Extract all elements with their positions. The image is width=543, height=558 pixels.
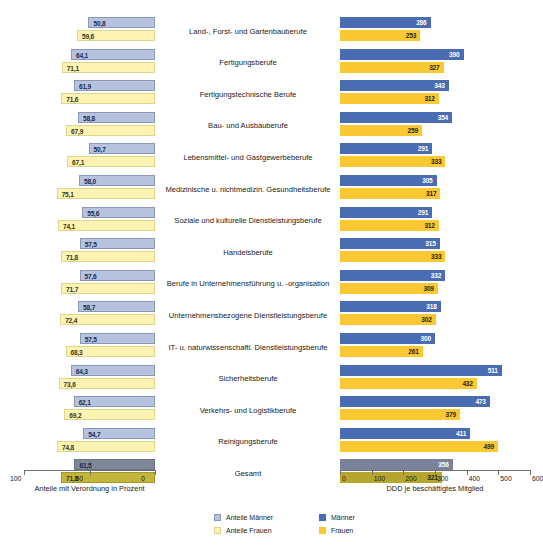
legend-item[interactable]: Anteile Männer (214, 512, 273, 523)
chart-row: 57,568,3IT- u. naturwissenschaftl. Diens… (0, 332, 538, 364)
legend-item[interactable]: Frauen (319, 525, 355, 536)
bar-frauen: 312 (340, 220, 439, 231)
bar-value-label: 291 (418, 209, 428, 216)
right-panel-ddd: 286253 (340, 16, 530, 48)
chart-row: 61,971,6Fertigungstechnische Berufe34331… (0, 79, 538, 111)
bar-value-label: 379 (446, 411, 456, 418)
bar-value-label: 75,1 (62, 191, 74, 198)
bar-maenner: 354 (340, 112, 452, 123)
bar-value-label: 354 (438, 114, 448, 121)
right-panel-ddd: 511432 (340, 364, 530, 396)
left-panel-percent: 55,674,1 (24, 206, 155, 238)
bar-anteile-maenner: 57,5 (80, 333, 155, 344)
chart-row: 50,767,1Lebensmittel- und Gastgewerbeber… (0, 142, 538, 174)
bar-anteile-maenner: 58,0 (79, 175, 155, 186)
bar-value-label: 50,7 (94, 146, 106, 153)
bar-maenner: 343 (340, 80, 449, 91)
bar-value-label: 343 (434, 82, 444, 89)
bar-anteile-frauen: 67,1 (67, 156, 155, 167)
left-panel-percent: 50,767,1 (24, 142, 155, 174)
bar-frauen: 327 (340, 62, 444, 73)
left-panel-percent: 61,971,6 (24, 79, 155, 111)
bar-frauen: 333 (340, 251, 445, 262)
bar-frauen: 317 (340, 188, 440, 199)
bar-value-label: 318 (426, 303, 436, 310)
left-panel-percent: 50,859,6 (24, 16, 155, 48)
right-panel-ddd: 354259 (340, 111, 530, 143)
legend-swatch-icon (214, 527, 221, 534)
bar-value-label: 68,3 (71, 349, 83, 356)
bar-value-label: 74,8 (62, 444, 74, 451)
left-panel-percent: 54,774,8 (24, 427, 155, 459)
bar-maenner: 318 (340, 301, 441, 312)
bar-maenner: 300 (340, 333, 435, 344)
bar-value-label: 67,1 (72, 159, 84, 166)
axis-tick-label: 500 (500, 475, 511, 482)
chart-row: 62,169,2Verkehrs- und Logistikberufe4733… (0, 395, 538, 427)
bar-value-label: 69,2 (69, 412, 81, 419)
bar-maenner: 356 (340, 459, 453, 470)
axis-tick-label: 600 (532, 475, 543, 482)
bar-value-label: 333 (431, 253, 441, 260)
bar-anteile-frauen: 75,1 (57, 188, 155, 199)
legend-item[interactable]: Männer (319, 512, 355, 523)
left-panel-percent: 64,171,1 (24, 48, 155, 80)
bar-value-label: 72,4 (65, 317, 77, 324)
left-panel-percent: 58,867,9 (24, 111, 155, 143)
category-label: IT- u. naturwissenschaftl. Dienstleistun… (158, 332, 338, 364)
bar-value-label: 55,6 (87, 210, 99, 217)
bar-value-label: 390 (449, 51, 459, 58)
legend-label: Männer (331, 514, 355, 521)
bar-value-label: 64,1 (76, 52, 88, 59)
bar-anteile-frauen: 74,1 (58, 220, 155, 231)
bar-anteile-maenner: 58,8 (78, 112, 155, 123)
axis-tick (498, 470, 499, 475)
right-panel-ddd: 315333 (340, 237, 530, 269)
chart-row: 57,571,8Handelsberufe315333 (0, 237, 538, 269)
axis-tick-label: 100 (374, 475, 385, 482)
bar-value-label: 71,1 (67, 65, 79, 72)
category-label: Reinigungsberufe (158, 427, 338, 459)
bar-value-label: 58,8 (83, 115, 95, 122)
bar-value-label: 312 (424, 95, 434, 102)
bar-anteile-maenner: 50,8 (88, 17, 155, 28)
category-label: Unternehmensbezogene Dienstleistungsberu… (158, 300, 338, 332)
bar-value-label: 57,6 (85, 273, 97, 280)
right-panel-ddd: 473379 (340, 395, 530, 427)
bar-value-label: 71,7 (66, 286, 78, 293)
right-panel-ddd: 343312 (340, 79, 530, 111)
bar-anteile-maenner: 62,1 (74, 396, 155, 407)
bar-value-label: 61,5 (79, 462, 91, 469)
bar-value-label: 50,8 (93, 20, 105, 27)
right-panel-ddd: 305317 (340, 174, 530, 206)
legend-item[interactable]: Anteile Frauen (214, 525, 273, 536)
right-panel-ddd: 318302 (340, 300, 530, 332)
left-panel-percent: 62,169,2 (24, 395, 155, 427)
axis-tick-label: 100 (10, 475, 21, 482)
axis-tick (530, 470, 531, 475)
chart-rows: 50,859,6Land-, Forst- und Gartenbauberuf… (0, 16, 538, 490)
bar-frauen: 309 (340, 283, 438, 294)
bar-anteile-maenner: 61,5 (74, 459, 155, 470)
bar-value-label: 259 (408, 127, 418, 134)
bar-maenner: 390 (340, 49, 464, 60)
chart-row: 55,674,1Soziale und kulturelle Dienstlei… (0, 206, 538, 238)
bar-anteile-frauen: 71,6 (61, 93, 155, 104)
right-panel-ddd: 390327 (340, 48, 530, 80)
bar-value-label: 305 (422, 177, 432, 184)
left-panel-percent: 58,075,1 (24, 174, 155, 206)
bar-maenner: 411 (340, 428, 470, 439)
bar-maenner: 291 (340, 207, 432, 218)
bar-anteile-maenner: 64,1 (71, 49, 155, 60)
bar-anteile-maenner: 57,5 (80, 238, 155, 249)
legend-swatch-icon (214, 514, 221, 521)
axis-tick (467, 470, 468, 475)
bar-value-label: 309 (423, 285, 433, 292)
axis-tick (24, 470, 25, 475)
category-label: Handelsberufe (158, 237, 338, 269)
legend-label: Anteile Frauen (226, 527, 272, 534)
bar-value-label: 57,5 (85, 241, 97, 248)
bar-frauen: 312 (340, 93, 439, 104)
right-panel-ddd: 411499 (340, 427, 530, 459)
axis-tick-label: 200 (405, 475, 416, 482)
